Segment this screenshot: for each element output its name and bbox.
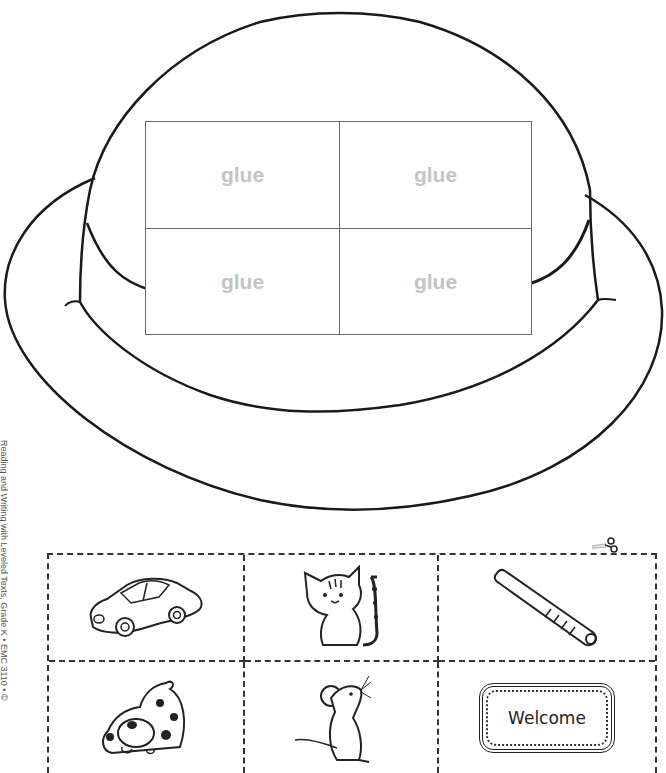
credit-text: Reading and Writing with Leveled Texts, … bbox=[0, 440, 9, 701]
cutout-card-cat[interactable] bbox=[245, 555, 439, 662]
side-credit: Reading and Writing with Leveled Texts, … bbox=[0, 440, 12, 766]
bat-icon bbox=[487, 563, 607, 653]
cat-icon bbox=[291, 563, 391, 653]
glue-label: glue bbox=[221, 270, 264, 294]
cutout-card-mouse[interactable] bbox=[245, 662, 439, 773]
glue-grid: glue glue glue glue bbox=[145, 121, 532, 335]
mouse-icon bbox=[291, 668, 391, 768]
cutout-card-welcome-mat[interactable]: Welcome bbox=[439, 662, 655, 773]
glue-label: glue bbox=[414, 270, 457, 294]
glue-label: glue bbox=[221, 163, 264, 187]
cutout-card-bat[interactable] bbox=[439, 555, 655, 662]
car-icon bbox=[81, 573, 211, 643]
glue-box-1: glue bbox=[146, 122, 340, 229]
scissors-icon bbox=[592, 537, 620, 553]
glue-box-3: glue bbox=[146, 229, 340, 334]
cutout-grid: Welcome bbox=[47, 553, 657, 773]
cutout-card-car[interactable] bbox=[49, 555, 245, 662]
welcome-mat-icon: Welcome bbox=[479, 683, 615, 753]
hat-band bbox=[87, 223, 150, 290]
glue-box-2: glue bbox=[340, 122, 531, 229]
glue-box-4: glue bbox=[340, 229, 531, 334]
welcome-mat-text: Welcome bbox=[508, 708, 586, 728]
cutout-card-dog[interactable] bbox=[49, 662, 245, 773]
glue-label: glue bbox=[414, 163, 457, 187]
dog-icon bbox=[96, 673, 196, 763]
